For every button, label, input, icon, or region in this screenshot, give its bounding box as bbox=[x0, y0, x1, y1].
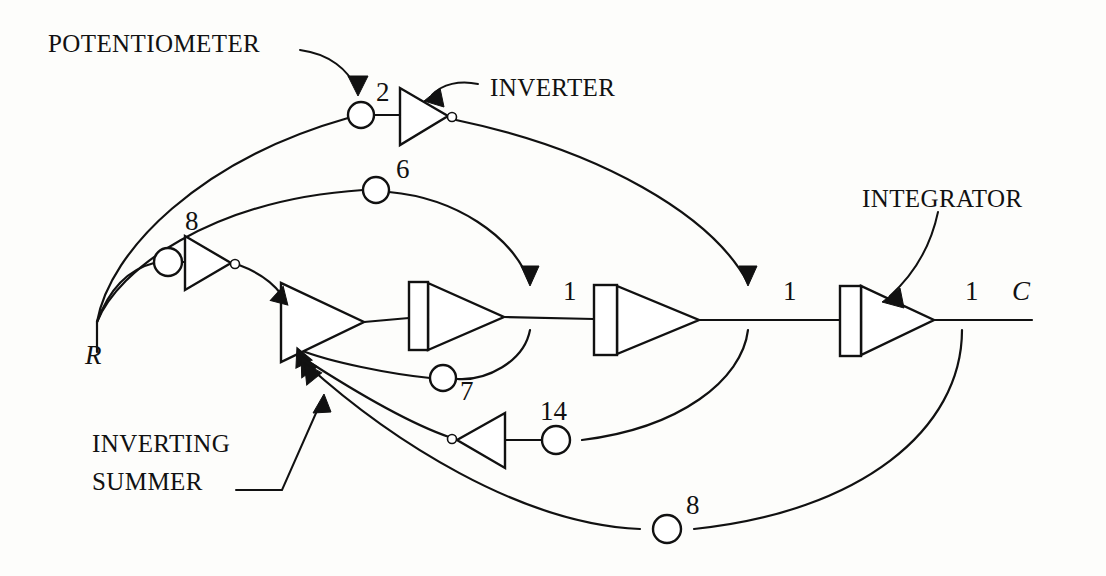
potentiometer-6[interactable] bbox=[363, 177, 389, 203]
signal-label-output: C bbox=[1012, 276, 1031, 306]
inverter-8-triangle bbox=[185, 236, 231, 290]
wire-inverter8-to-summer bbox=[239, 265, 281, 294]
gain-label-1-c: 1 bbox=[965, 276, 979, 306]
integrator-3-bar bbox=[840, 286, 861, 356]
wire-feedback8-right bbox=[694, 330, 962, 529]
wire-inverter-top-to-main bbox=[456, 120, 748, 283]
arrowhead-inverting-summer-leader bbox=[313, 394, 331, 413]
callout-potentiometer: POTENTIOMETER bbox=[48, 30, 260, 57]
gain-label-1-a: 1 bbox=[563, 276, 577, 306]
inverter-8-bubble bbox=[231, 260, 240, 269]
wire-integrator1-to-integrator2 bbox=[504, 317, 594, 319]
potentiometer-8-top[interactable] bbox=[154, 248, 182, 276]
potentiometer-2[interactable] bbox=[348, 102, 374, 128]
integrator-2[interactable] bbox=[594, 285, 699, 355]
integrator-2-triangle bbox=[617, 286, 699, 354]
wire-pot6-to-main bbox=[389, 192, 530, 283]
inverting-summer-triangle bbox=[281, 283, 364, 362]
signal-label-input: R bbox=[84, 340, 102, 370]
inverting-summer[interactable] bbox=[281, 283, 364, 362]
pot-label-2: 2 bbox=[376, 77, 390, 107]
inverter-14-bubble bbox=[448, 435, 457, 444]
integrator-2-bar bbox=[594, 285, 617, 355]
potentiometer-7[interactable] bbox=[430, 365, 456, 391]
arrowhead-potentiometer-leader bbox=[348, 76, 368, 96]
pot-label-14: 14 bbox=[540, 396, 568, 426]
potentiometer-14[interactable] bbox=[542, 426, 570, 454]
callout-inverter: INVERTER bbox=[490, 74, 615, 101]
arrowhead-main-node-2 bbox=[739, 266, 757, 286]
leader-integrator bbox=[890, 212, 938, 296]
callout-inverting-summer-line2: SUMMER bbox=[92, 468, 203, 495]
pot-label-8-top: 8 bbox=[185, 206, 199, 236]
inverter-top-bubble bbox=[448, 113, 457, 122]
pot-label-6: 6 bbox=[396, 154, 410, 184]
gain-label-1-b: 1 bbox=[783, 276, 797, 306]
leader-inverting-summer bbox=[236, 404, 320, 490]
callout-inverting-summer-line1: INVERTING bbox=[92, 430, 230, 457]
inverter-14[interactable] bbox=[448, 413, 506, 468]
wire-feedback7-right bbox=[457, 330, 530, 379]
analog-computer-diagram: POTENTIOMETER INVERTER INTEGRATOR INVERT… bbox=[0, 0, 1106, 576]
inverter-14-triangle bbox=[457, 413, 505, 468]
potentiometer-8-bottom[interactable] bbox=[653, 515, 681, 543]
wire-summer-to-integrator1 bbox=[364, 318, 409, 322]
pot-label-8-bottom: 8 bbox=[686, 490, 700, 520]
leader-potentiometer bbox=[300, 50, 356, 88]
pot-label-7: 7 bbox=[460, 376, 474, 406]
integrator-1-bar bbox=[409, 282, 428, 350]
integrator-1[interactable] bbox=[409, 282, 504, 350]
integrator-3[interactable] bbox=[840, 286, 934, 356]
callout-integrator: INTEGRATOR bbox=[862, 185, 1022, 212]
inverter-top[interactable] bbox=[400, 88, 457, 145]
inverter-8[interactable] bbox=[185, 236, 240, 290]
diagram-canvas: POTENTIOMETER INVERTER INTEGRATOR INVERT… bbox=[0, 0, 1106, 576]
arrowhead-main-node-1 bbox=[521, 266, 539, 286]
integrator-1-triangle bbox=[428, 283, 504, 350]
